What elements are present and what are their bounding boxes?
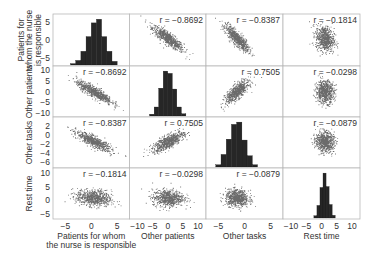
histogram-bar [323,173,326,218]
histogram-bar [252,165,257,167]
correlation-label: r = 0.7505 [241,67,280,77]
histogram-bar [177,107,182,116]
y-tick-label: 0 [45,87,50,97]
correlation-label: r = −0.1814 [314,15,358,25]
y-tick-label: 0 [45,195,50,205]
histogram-bar [91,23,96,65]
histogram-bar [163,71,168,116]
histogram-bar [221,154,226,167]
y-tick-label: 5 [45,17,50,27]
histogram-bar [314,216,317,218]
histogram-bar [332,215,335,218]
histogram-bar [76,60,81,65]
y-tick-label: 0 [45,35,50,45]
y-tick-label: 5 [45,182,50,192]
x-tick-label: 5 [180,221,185,231]
histogram-bar [102,37,107,65]
panel-r1-c1 [130,66,207,117]
column-axis-labels: −505Patients for whomthe nurse is respon… [46,221,357,250]
histogram-bar [231,124,236,167]
x-tick-label: 5 [115,221,120,231]
y-tick-label: −5 [40,209,50,219]
histogram-bar [150,114,155,116]
histogram-bar [242,140,247,167]
y-tick-label: 5 [45,76,50,86]
panel-r0-c2: r = −0.8387 [206,14,283,66]
correlation-label: r = 0.7505 [164,118,203,128]
correlation-label: r = −0.8692 [160,15,204,25]
histogram-bar [216,165,221,167]
panel-r1-c2: r = 0.7505 [206,66,283,117]
column-label: Other patients [141,231,194,241]
histogram-bar [172,89,177,116]
panel-r0-c1: r = −0.8692 [130,14,207,66]
scatter-matrix-figure: r = −0.8692r = −0.8387r = −0.1814r = −0.… [0,0,380,253]
histogram-bar [168,73,173,116]
x-tick-label: 0 [319,221,324,231]
correlation-label: r = −0.1814 [83,169,127,179]
histogram-bar [154,107,159,116]
x-tick-label: −5 [301,221,311,231]
histogram-bar [112,61,117,65]
panel-r2-c2 [206,117,283,168]
column-label: the nurse is responsible [46,240,136,250]
panel-r1-c0: r = −0.8692 [53,66,130,117]
panel-r2-c0: r = −0.8387 [53,117,130,168]
panel-r0-c3: r = −0.1814 [283,14,360,66]
histogram-bar [320,187,323,218]
correlation-label: r = −0.0298 [314,67,358,77]
x-tick-label: 0 [242,221,247,231]
x-tick-label: 5 [334,221,339,231]
panel-r3-c3 [283,168,360,219]
histogram-bar [107,51,112,65]
correlation-label: r = −0.8692 [83,67,127,77]
panel-r2-c3: r = −0.0879 [283,117,360,168]
y-tick-label: 10 [41,65,51,75]
y-tick-label: −2 [40,139,50,149]
row-axis-labels: −505Patients forwhom the nurseis respons… [16,9,51,219]
row-label: Other tasks [24,121,34,164]
x-tick-label: 0 [89,221,94,231]
row-label: Patients forwhom the nurseis responsible [16,9,43,71]
panel-r3-c1: r = −0.0298 [130,168,207,219]
row-label: Rest time [24,175,34,211]
panel-r2-c1: r = 0.7505 [130,117,207,168]
x-tick-label: −5 [214,221,224,231]
correlation-label: r = −0.8387 [237,15,281,25]
x-tick-label: 5 [268,221,273,231]
panel-grid: r = −0.8692r = −0.8387r = −0.1814r = −0.… [53,14,360,219]
panel-r0-c0 [53,14,130,66]
histogram-bar [326,187,329,218]
histogram-bar [81,51,86,65]
y-tick-label: −6 [40,157,50,167]
histogram-bar [159,88,164,116]
y-tick-label: −4 [40,148,50,158]
x-tick-label: 10 [193,221,203,231]
y-tick-label: 10 [41,168,51,178]
row-label: Other patients [24,65,34,118]
histogram-bar [247,156,252,167]
x-tick-label: −5 [148,221,158,231]
histogram-bar [329,205,332,218]
x-tick-label: −10 [130,221,145,231]
panel-r3-c0: r = −0.1814 [53,168,130,219]
correlation-label: r = −0.0879 [237,169,281,179]
y-tick-label: 0 [45,130,50,140]
histogram-bar [71,64,76,65]
panel-r1-c3: r = −0.0298 [283,66,360,117]
y-tick-label: 2 [45,121,50,131]
histogram-bar [96,19,101,65]
histogram-bar [86,37,91,65]
correlation-label: r = −0.0298 [160,169,204,179]
histogram-bar [181,114,186,116]
x-tick-label: 10 [347,221,357,231]
panel-r3-c2: r = −0.0879 [206,168,283,219]
y-tick-label: −5 [40,97,50,107]
x-tick-label: 0 [165,221,170,231]
x-tick-label: −5 [61,221,71,231]
histogram-bar [226,139,231,167]
correlation-label: r = −0.8387 [83,118,127,128]
y-tick-label: −10 [36,108,51,118]
column-label: Other tasks [223,231,266,241]
column-label: Rest time [304,231,340,241]
